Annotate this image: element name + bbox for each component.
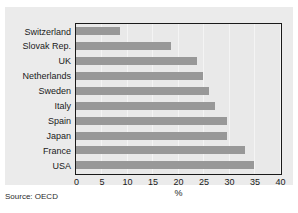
category-label: France [43, 144, 71, 159]
bar-sweden [76, 87, 209, 95]
bar-france [76, 146, 245, 154]
bar-row [76, 98, 280, 113]
category-label: Spain [48, 114, 71, 129]
plot-area [75, 23, 282, 175]
bar-row [76, 54, 280, 69]
bar-row [76, 128, 280, 143]
bar-usa [76, 161, 254, 169]
category-label: UK [58, 54, 71, 69]
category-axis-labels: SwitzerlandSlovak Rep.UKNetherlandsSwede… [10, 23, 73, 175]
bar-uk [76, 57, 197, 65]
x-tick-label: 15 [148, 177, 158, 187]
bar-italy [76, 102, 215, 110]
cut-off-caption [0, 0, 298, 7]
category-label: Switzerland [24, 25, 71, 40]
bar-row [76, 39, 280, 54]
category-label: Slovak Rep. [22, 39, 71, 54]
chart-panel: SwitzerlandSlovak Rep.UKNetherlandsSwede… [5, 7, 293, 185]
bar-japan [76, 132, 227, 140]
category-label: USA [52, 159, 71, 174]
bar-spain [76, 117, 227, 125]
figure: SwitzerlandSlovak Rep.UKNetherlandsSwede… [0, 0, 298, 213]
bar-switzerland [76, 27, 120, 35]
x-tick-label: 25 [199, 177, 209, 187]
category-label: Italy [54, 99, 71, 114]
plot-inner [76, 24, 281, 174]
category-label: Sweden [38, 84, 71, 99]
bar-row [76, 143, 280, 158]
bar-row [76, 113, 280, 128]
bar-row [76, 158, 280, 173]
bar-series [76, 24, 281, 174]
x-tick-label: 10 [123, 177, 133, 187]
bar-slovak-rep [76, 42, 171, 50]
bar-row [76, 24, 280, 39]
x-tick-label: 35 [250, 177, 260, 187]
x-tick-label: 5 [100, 177, 105, 187]
bar-netherlands [76, 72, 203, 80]
category-label: Netherlands [22, 69, 71, 84]
bar-row [76, 84, 280, 99]
x-tick-label: 20 [173, 177, 183, 187]
bar-row [76, 69, 280, 84]
category-label: Japan [46, 129, 71, 144]
x-axis-title: % [75, 188, 282, 198]
x-tick-label: 0 [74, 177, 79, 187]
x-tick-label: 30 [224, 177, 234, 187]
source-note: Source: OECD [5, 192, 58, 201]
x-tick-label: 40 [275, 177, 285, 187]
